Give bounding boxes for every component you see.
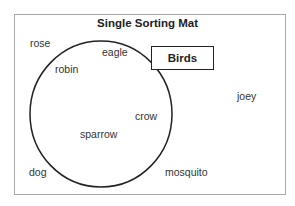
item-sparrow: sparrow [80, 128, 117, 140]
item-joey: joey [237, 90, 256, 102]
item-mosquito: mosquito [165, 166, 208, 178]
item-robin: robin [55, 63, 78, 75]
item-crow: crow [135, 110, 157, 122]
item-eagle: eagle [102, 46, 128, 58]
item-dog: dog [29, 166, 47, 178]
item-rose: rose [30, 37, 50, 49]
set-label-birds: Birds [151, 46, 214, 70]
